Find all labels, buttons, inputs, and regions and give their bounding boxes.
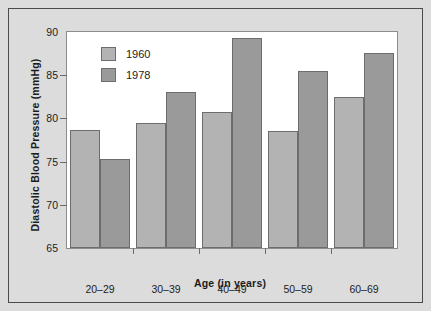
- bar-1960-60-69: [334, 97, 364, 248]
- bar-1978-30-39: [166, 92, 196, 248]
- x-tick-label-40-49: 40–49: [217, 283, 246, 295]
- x-tick-mark: [265, 248, 266, 254]
- x-tick-label-20-29: 20–29: [85, 283, 114, 295]
- legend-label: 1978: [126, 69, 150, 81]
- legend-swatch-icon: [101, 68, 116, 82]
- bar-1978-60-69: [364, 53, 394, 248]
- x-tick-label-60-69: 60–69: [349, 283, 378, 295]
- x-tick-mark: [199, 248, 200, 254]
- y-tick-label: 65: [46, 242, 58, 254]
- legend-item-1978: 1978: [101, 68, 150, 82]
- y-tick-label: 80: [46, 112, 58, 124]
- y-tick-label: 75: [46, 156, 58, 168]
- y-tick-mark: [60, 162, 67, 163]
- y-tick-mark: [60, 205, 67, 206]
- legend-swatch-icon: [101, 47, 116, 61]
- x-tick-mark: [133, 248, 134, 254]
- y-tick-label: 85: [46, 69, 58, 81]
- bar-1960-40-49: [202, 112, 232, 248]
- y-tick-mark: [60, 75, 67, 76]
- legend-item-1960: 1960: [101, 47, 150, 61]
- bar-1978-40-49: [232, 38, 262, 248]
- legend-label: 1960: [126, 48, 150, 60]
- y-tick-mark: [60, 118, 67, 119]
- bar-1960-30-39: [136, 123, 166, 248]
- bar-1978-20-29: [100, 159, 130, 248]
- chart-legend: 19601978: [101, 47, 150, 89]
- y-tick-label: 90: [46, 26, 58, 38]
- y-axis-title: Diastolic Blood Pressure (mmHg): [29, 35, 41, 255]
- bar-1978-50-59: [298, 71, 328, 248]
- figure-container: Diastolic Blood Pressure (mmHg) Age (in …: [0, 0, 431, 311]
- bar-1960-20-29: [70, 130, 100, 248]
- y-tick-label: 70: [46, 199, 58, 211]
- x-tick-mark: [331, 248, 332, 254]
- plot-area: 657075808590 19601978 20–2930–3940–4950–…: [66, 31, 398, 249]
- bar-1960-50-59: [268, 131, 298, 249]
- x-tick-label-50-59: 50–59: [283, 283, 312, 295]
- x-tick-label-30-39: 30–39: [151, 283, 180, 295]
